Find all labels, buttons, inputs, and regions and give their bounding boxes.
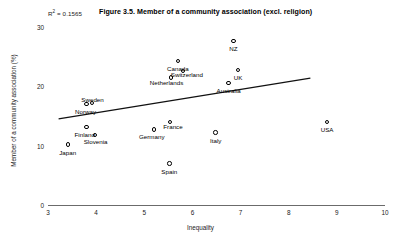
data-point [213, 130, 217, 134]
figure-container: R2 = 0.1565 Figure 3.5. Member of a comm… [0, 0, 401, 249]
data-point-label: Japan [59, 149, 76, 156]
data-point-label: USA [321, 126, 334, 133]
data-point-label: UK [234, 74, 243, 81]
data-point-label: Finland [75, 131, 95, 138]
data-point-label: Slovenia [84, 138, 108, 145]
data-point [167, 161, 171, 165]
data-point-label: NZ [229, 45, 237, 52]
data-point-label: Spain [161, 168, 177, 175]
data-point-label: Germany [139, 133, 165, 140]
plot-area [48, 24, 385, 205]
data-point [226, 81, 230, 85]
data-point-label: Netherlands [150, 79, 184, 86]
data-point [93, 133, 97, 137]
data-point-label: France [163, 123, 182, 130]
data-point-label: Norway [75, 108, 96, 115]
data-point-label: Switzerland [171, 71, 203, 78]
data-point [66, 142, 70, 146]
data-point [84, 102, 88, 106]
data-point [152, 127, 156, 131]
data-point [231, 39, 235, 43]
data-point-label: Italy [210, 137, 221, 144]
data-point-label: Australia [217, 87, 241, 94]
